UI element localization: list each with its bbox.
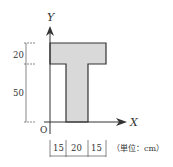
t-section-shape — [50, 43, 106, 122]
origin-label: O — [40, 125, 47, 135]
dim-label-20-vertical: 20 — [13, 50, 24, 60]
dim-label-20-horizontal: 20 — [71, 143, 82, 153]
unit-note: （単位：cm） — [112, 143, 164, 153]
x-axis-label: X — [129, 116, 139, 129]
dim-label-15-left: 15 — [53, 143, 64, 153]
dim-label-15-right: 15 — [91, 143, 102, 153]
t-section-diagram: Y X O 20 50 15 20 15 （単位：cm） — [0, 0, 173, 167]
y-axis-label: Y — [47, 11, 56, 24]
dim-label-50-vertical: 50 — [13, 88, 24, 98]
